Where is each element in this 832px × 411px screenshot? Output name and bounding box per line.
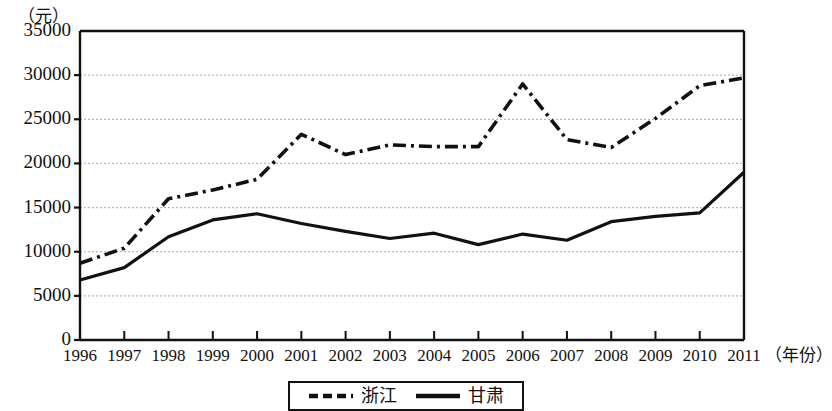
legend: 浙江 甘肃 [288, 381, 524, 411]
dashed-line-swatch-icon [308, 390, 354, 402]
line-chart: （元） 05000100001500020000250003000035000 … [0, 0, 832, 411]
legend-label-gansu: 甘肃 [468, 387, 504, 405]
legend-item-zhejiang: 浙江 [308, 387, 397, 405]
legend-label-zhejiang: 浙江 [361, 387, 397, 405]
solid-line-swatch-icon [415, 390, 461, 402]
plot-area [0, 0, 832, 411]
series-line-gansu [80, 172, 744, 280]
legend-item-gansu: 甘肃 [415, 387, 504, 405]
